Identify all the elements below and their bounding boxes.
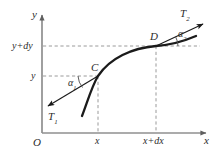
x-tick-text-x-plus-dx: x+dx <box>143 135 164 146</box>
x-tick-label-x: x <box>95 136 99 146</box>
point-label-C: C <box>91 62 98 73</box>
force-label-T2: T2 <box>180 8 190 22</box>
y-axis-label: y <box>32 9 37 20</box>
force-T2-subscript: 2 <box>186 15 189 22</box>
x-tick-label-x-plus-dx: x+dx <box>143 136 164 146</box>
point-C-text: C <box>91 61 98 73</box>
catenary-curve <box>82 36 196 116</box>
y-tick-text-y-plus-dy: y+dy <box>12 40 33 51</box>
x-axis-label: x <box>204 135 209 146</box>
curve-tangent-force-diagram: y x O y+dy y x x+dx C D T1 T2 α1 α2 <box>0 0 220 164</box>
projection-lines-group <box>43 46 200 132</box>
x-tick-text-x: x <box>95 135 99 146</box>
y-tick-label-y: y <box>31 71 35 81</box>
force-label-T1: T1 <box>48 111 58 125</box>
force-T1-subscript: 1 <box>54 118 57 125</box>
angle-alpha1-subscript: 1 <box>73 84 76 91</box>
angle-label-alpha1: α1 <box>68 78 76 90</box>
y-tick-label-y-plus-dy: y+dy <box>12 41 33 51</box>
point-label-D: D <box>150 31 158 42</box>
angle-alpha2-subscript: 2 <box>183 35 186 42</box>
origin-label: O <box>33 137 41 148</box>
y-tick-text-y: y <box>31 70 35 81</box>
point-D-text: D <box>150 30 158 42</box>
curve-group <box>82 36 196 116</box>
angle-label-alpha2: α2 <box>178 29 186 41</box>
